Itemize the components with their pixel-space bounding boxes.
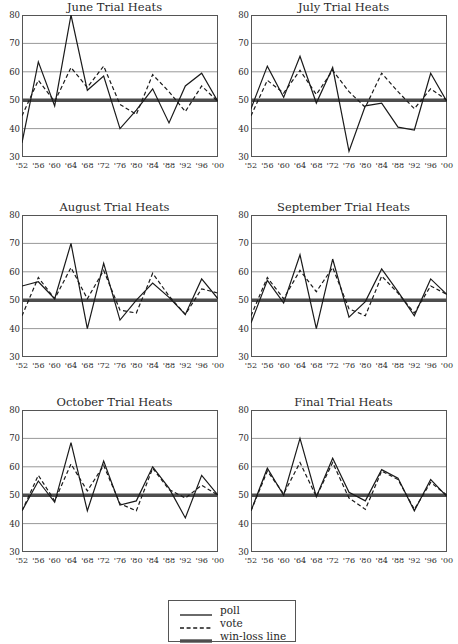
plot-area xyxy=(251,215,447,357)
x-tick-label: '96 xyxy=(195,161,207,171)
series-poll xyxy=(22,243,218,328)
x-tick-label: '52 xyxy=(16,556,28,566)
legend-area: pollvotewin-loss line xyxy=(0,598,458,644)
x-tick-label: '56 xyxy=(261,556,273,566)
x-tick-label: '00 xyxy=(212,556,224,566)
x-tick-label: '00 xyxy=(441,361,453,371)
x-tick-label: '72 xyxy=(97,556,109,566)
plot-frame xyxy=(252,411,447,552)
series-vote xyxy=(22,268,218,316)
x-tick-label: '68 xyxy=(81,361,93,371)
plot-area xyxy=(22,410,218,552)
plot-frame xyxy=(23,16,218,157)
chart-panel: September Trial Heats304050607080'52'56'… xyxy=(229,200,458,395)
x-tick-label: '68 xyxy=(310,361,322,371)
legend-label: vote xyxy=(220,617,243,629)
x-tick-label: '80 xyxy=(359,556,371,566)
y-tick-label: 50 xyxy=(9,296,20,305)
x-tick-label: '56 xyxy=(261,161,273,171)
plot-area xyxy=(251,15,447,157)
plot-frame xyxy=(252,216,447,357)
x-tick-label: '00 xyxy=(441,161,453,171)
trial-heats-panel-grid: June Trial Heats304050607080'52'56'60'64… xyxy=(0,0,458,595)
x-axis-labels: '52'56'60'64'68'72'76'80'84'88'92'96'00 xyxy=(251,361,447,375)
y-axis-labels: 304050607080 xyxy=(229,410,251,552)
x-tick-label: '00 xyxy=(441,556,453,566)
x-axis-labels: '52'56'60'64'68'72'76'80'84'88'92'96'00 xyxy=(251,556,447,570)
x-tick-label: '88 xyxy=(392,161,404,171)
legend-label: poll xyxy=(220,604,240,616)
y-tick-label: 30 xyxy=(238,353,249,362)
plot-svg xyxy=(251,15,447,157)
y-axis-labels: 304050607080 xyxy=(229,215,251,357)
x-tick-label: '80 xyxy=(130,556,142,566)
x-tick-label: '00 xyxy=(212,361,224,371)
x-tick-label: '76 xyxy=(343,361,355,371)
x-tick-label: '88 xyxy=(392,556,404,566)
chart-panel: Final Trial Heats304050607080'52'56'60'6… xyxy=(229,395,458,595)
y-tick-label: 60 xyxy=(9,68,20,77)
dashed-line-icon xyxy=(179,618,213,628)
x-tick-label: '84 xyxy=(146,361,158,371)
chart-panel: October Trial Heats304050607080'52'56'60… xyxy=(0,395,229,595)
x-tick-label: '76 xyxy=(343,556,355,566)
x-tick-label: '52 xyxy=(245,161,257,171)
series-vote xyxy=(22,464,218,511)
x-tick-label: '52 xyxy=(16,361,28,371)
chart-panel: July Trial Heats304050607080'52'56'60'64… xyxy=(229,0,458,200)
chart-title: August Trial Heats xyxy=(0,200,229,214)
chart-title: October Trial Heats xyxy=(0,395,229,409)
series-poll xyxy=(22,15,218,143)
x-tick-label: '64 xyxy=(65,556,77,566)
x-tick-label: '84 xyxy=(375,556,387,566)
x-tick-label: '96 xyxy=(195,556,207,566)
x-tick-label: '64 xyxy=(65,161,77,171)
x-tick-label: '92 xyxy=(179,556,191,566)
y-tick-label: 30 xyxy=(9,153,20,162)
x-axis-labels: '52'56'60'64'68'72'76'80'84'88'92'96'00 xyxy=(22,161,218,175)
x-tick-label: '80 xyxy=(359,161,371,171)
x-tick-label: '52 xyxy=(16,161,28,171)
x-tick-label: '88 xyxy=(163,361,175,371)
x-tick-label: '60 xyxy=(48,361,60,371)
x-tick-label: '72 xyxy=(326,361,338,371)
x-tick-label: '96 xyxy=(424,556,436,566)
x-tick-label: '80 xyxy=(359,361,371,371)
y-axis-labels: 304050607080 xyxy=(0,15,22,157)
series-vote xyxy=(22,66,218,116)
solid-line-icon xyxy=(179,605,213,615)
y-tick-label: 50 xyxy=(9,96,20,105)
x-tick-label: '76 xyxy=(343,161,355,171)
legend-item: win-loss line xyxy=(179,629,295,642)
chart-title: June Trial Heats xyxy=(0,0,229,14)
y-tick-label: 40 xyxy=(9,124,20,133)
y-tick-label: 30 xyxy=(238,548,249,557)
chart-title: July Trial Heats xyxy=(229,0,458,14)
chart-title: Final Trial Heats xyxy=(229,395,458,409)
x-tick-label: '72 xyxy=(326,556,338,566)
x-tick-label: '56 xyxy=(261,361,273,371)
x-tick-label: '68 xyxy=(310,161,322,171)
legend-label: win-loss line xyxy=(220,630,286,642)
x-tick-label: '60 xyxy=(277,161,289,171)
y-tick-label: 50 xyxy=(238,491,249,500)
y-tick-label: 60 xyxy=(238,68,249,77)
plot-svg xyxy=(22,410,218,552)
y-tick-label: 70 xyxy=(238,239,249,248)
plot-area xyxy=(251,410,447,552)
plot-area xyxy=(22,215,218,357)
x-axis-labels: '52'56'60'64'68'72'76'80'84'88'92'96'00 xyxy=(22,556,218,570)
x-tick-label: '72 xyxy=(97,361,109,371)
x-tick-label: '52 xyxy=(245,556,257,566)
series-poll xyxy=(22,443,218,518)
x-tick-label: '80 xyxy=(130,161,142,171)
y-tick-label: 50 xyxy=(238,96,249,105)
x-tick-label: '84 xyxy=(146,161,158,171)
y-tick-label: 30 xyxy=(238,153,249,162)
y-tick-label: 40 xyxy=(9,324,20,333)
y-tick-label: 70 xyxy=(9,39,20,48)
y-tick-label: 30 xyxy=(9,353,20,362)
legend-item: vote xyxy=(179,616,295,629)
y-tick-label: 70 xyxy=(9,434,20,443)
x-tick-label: '92 xyxy=(408,556,420,566)
